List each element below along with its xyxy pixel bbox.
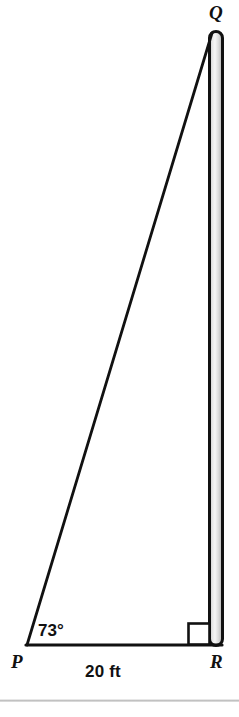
vertex-label-q: Q	[209, 3, 223, 22]
pole-segment-qr	[210, 32, 223, 646]
side-length-label-pr: 20 ft	[85, 663, 121, 680]
right-angle-square-icon	[189, 624, 210, 645]
angle-label-at-p: 73°	[38, 622, 64, 639]
vertex-label-r: R	[210, 652, 223, 671]
page-divider	[0, 699, 239, 702]
geometry-figure: Q P R 73° 20 ft	[0, 0, 239, 717]
figure-background	[0, 0, 239, 717]
vertex-label-p: P	[11, 652, 23, 671]
triangle-diagram-canvas	[0, 0, 239, 717]
